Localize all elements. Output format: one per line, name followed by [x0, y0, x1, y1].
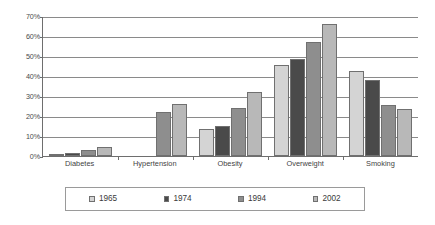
bar-group: [343, 17, 418, 156]
category-label-obesity: Obesity: [192, 160, 267, 176]
category-label-hypertension: Hypertension: [117, 160, 192, 176]
y-tick-label: 20%: [26, 113, 40, 120]
bar-2002[interactable]: [247, 92, 262, 156]
y-axis: 0%10%20%30%40%50%60%70%: [14, 17, 40, 157]
y-tick-label: 30%: [26, 93, 40, 100]
bar-1965[interactable]: [349, 71, 364, 156]
plot-area: [42, 17, 418, 157]
bar-2002[interactable]: [97, 147, 112, 156]
bar-group: [118, 17, 193, 156]
y-tick-label: 70%: [26, 13, 40, 20]
y-tick-label: 40%: [26, 73, 40, 80]
bar-group: [193, 17, 268, 156]
y-tickmark: [40, 157, 43, 158]
y-tick-label: 10%: [26, 133, 40, 140]
legend-label: 1994: [248, 195, 266, 203]
legend-swatch-icon: [164, 196, 170, 202]
legend-item-1994[interactable]: 1994: [238, 195, 266, 203]
bar-1974[interactable]: [65, 153, 80, 156]
legend-item-1974[interactable]: 1974: [164, 195, 192, 203]
legend-swatch-icon: [89, 196, 95, 202]
bar-1994[interactable]: [381, 105, 396, 156]
legend-item-2002[interactable]: 2002: [313, 195, 341, 203]
y-tick-label: 0%: [30, 153, 40, 160]
bar-1965[interactable]: [49, 154, 64, 156]
bar-1965[interactable]: [274, 65, 289, 156]
category-label-diabetes: Diabetes: [42, 160, 117, 176]
bar-group: [268, 17, 343, 156]
bar-group: [43, 17, 118, 156]
legend-label: 1965: [99, 195, 117, 203]
bar-groups: [43, 17, 418, 156]
category-label-smoking: Smoking: [343, 160, 418, 176]
bar-1974[interactable]: [215, 126, 230, 156]
bar-2002[interactable]: [172, 104, 187, 156]
bar-1974[interactable]: [365, 80, 380, 156]
bar-1965[interactable]: [199, 129, 214, 156]
legend-swatch-icon: [238, 196, 244, 202]
bar-1994[interactable]: [156, 112, 171, 156]
legend-swatch-icon: [313, 196, 319, 202]
bar-chart: 0%10%20%30%40%50%60%70% DiabetesHyperten…: [0, 0, 435, 225]
legend-label: 1974: [173, 195, 191, 203]
bar-1994[interactable]: [306, 42, 321, 156]
bar-2002[interactable]: [397, 109, 412, 156]
x-axis-category-labels: DiabetesHypertensionObesityOverweightSmo…: [42, 160, 418, 176]
chart-legend: 1965197419942002: [65, 187, 365, 211]
y-tick-label: 50%: [26, 53, 40, 60]
y-tick-label: 60%: [26, 33, 40, 40]
bar-2002[interactable]: [322, 24, 337, 156]
bar-1994[interactable]: [231, 108, 246, 156]
bar-1994[interactable]: [81, 150, 96, 156]
plot-wrapper: 0%10%20%30%40%50%60%70% DiabetesHyperten…: [0, 0, 435, 185]
legend-item-1965[interactable]: 1965: [89, 195, 117, 203]
category-label-overweight: Overweight: [268, 160, 343, 176]
bar-1974[interactable]: [290, 59, 305, 156]
legend-label: 2002: [322, 195, 340, 203]
